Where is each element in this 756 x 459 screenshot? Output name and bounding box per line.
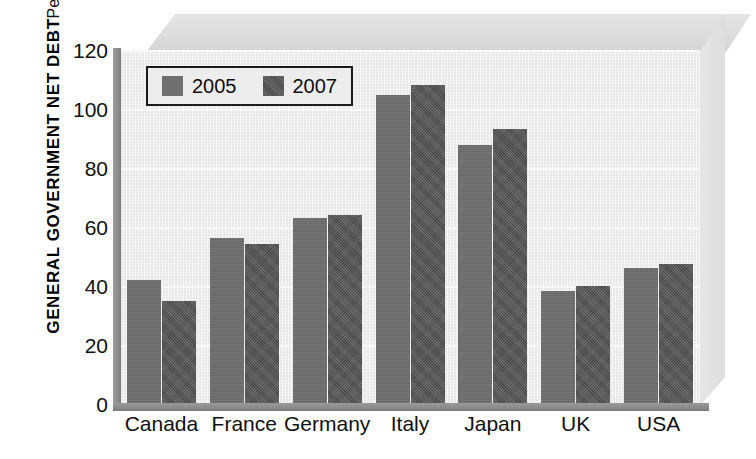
bar-germany-2007 [328,215,362,405]
chart-legend: 2005 2007 [146,66,353,106]
chart-figure: 020406080100120 CanadaFranceGermanyItaly… [0,0,756,459]
bar-usa-2007 [659,264,693,405]
bar-uk-2005 [541,291,575,405]
bar-germany-2005 [293,218,327,405]
x-tick-label-usa: USA [637,412,680,436]
legend-item-2007: 2007 [263,76,338,96]
x-tick-label-france: France [212,412,277,436]
bar-usa-2005 [624,268,658,405]
legend-swatch-2007-icon [263,76,284,96]
x-tick-label-japan: Japan [464,412,521,436]
y-axis-subtitle: Percent of GDP [45,0,63,18]
bar-france-2007 [245,244,279,405]
bar-japan-2007 [493,129,527,405]
bar-uk-2007 [576,286,610,405]
x-tick-label-canada: Canada [125,412,199,436]
chart-3d-top-face [146,14,751,52]
bar-italy-2005 [376,95,410,405]
bar-japan-2005 [458,145,492,405]
y-axis-title: GENERAL GOVERNMENT NET DEBT [44,18,64,333]
legend-label-2005: 2005 [192,76,237,96]
legend-label-2007: 2007 [293,76,338,96]
x-axis-line [113,403,709,411]
x-tick-label-uk: UK [561,412,590,436]
legend-swatch-2005-icon [162,76,183,96]
y-axis-line [113,48,121,408]
legend-item-2005: 2005 [162,76,237,96]
y-tick-label: 20 [50,334,108,358]
bar-france-2005 [210,238,244,405]
y-axis-title-group: GENERAL GOVERNMENT NET DEBT Percent of G… [24,0,84,290]
bar-canada-2007 [162,301,196,405]
x-tick-label-germany: Germany [284,412,370,436]
bar-italy-2007 [411,85,445,405]
bar-canada-2005 [127,280,161,405]
y-tick-label: 0 [50,393,108,417]
x-axis-category-labels: CanadaFranceGermanyItalyJapanUKUSA [120,412,720,446]
chart-3d-right-face [700,14,751,414]
x-tick-label-italy: Italy [391,412,430,436]
